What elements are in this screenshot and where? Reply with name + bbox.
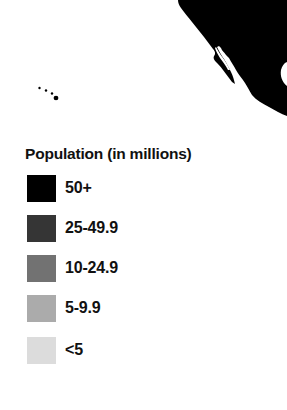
legend-label: 25-49.9 <box>65 219 118 237</box>
hawaii-islands <box>38 87 58 100</box>
legend-label: 5-9.9 <box>65 299 100 317</box>
legend-item-25-49: 25-49.9 <box>27 214 118 242</box>
legend-label: 10-24.9 <box>65 259 118 277</box>
legend-swatch <box>27 295 56 322</box>
legend-swatch <box>27 175 56 202</box>
legend-item-under-5: <5 <box>27 336 83 364</box>
map-legend: Population (in millions) 50+ 25-49.9 10-… <box>25 143 275 165</box>
legend-item-10-24: 10-24.9 <box>27 254 118 282</box>
legend-swatch <box>27 337 56 364</box>
mainland-shape <box>178 0 287 116</box>
legend-item-5-9: 5-9.9 <box>27 294 100 322</box>
legend-label: 50+ <box>65 179 92 197</box>
legend-label: <5 <box>65 341 83 359</box>
map <box>0 0 287 140</box>
map-shape <box>0 0 287 140</box>
legend-swatch <box>27 215 56 242</box>
legend-swatch <box>27 255 56 282</box>
legend-title: Population (in millions) <box>25 143 275 165</box>
legend-item-50-plus: 50+ <box>27 174 92 202</box>
